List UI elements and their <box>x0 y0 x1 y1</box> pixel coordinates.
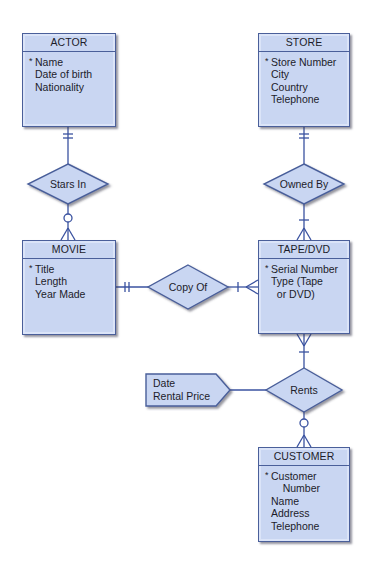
entity-tape-dvd-attributes: Serial Number Type (Tape or DVD) <box>259 259 349 300</box>
attribute-key: Title <box>35 263 115 275</box>
attribute-key: Serial Number <box>271 263 349 275</box>
relationship-attribute-text: Date Rental Price <box>153 377 210 402</box>
entity-store-title: STORE <box>259 34 349 52</box>
connector-owned-by-tape <box>297 204 311 240</box>
attribute-key: Store Number <box>271 56 349 68</box>
attribute-key: Customer <box>271 470 349 482</box>
entity-store[interactable]: STORE Store Number City Country Telephon… <box>258 33 350 127</box>
entity-tape-dvd-title: TAPE/DVD <box>259 241 349 259</box>
entity-customer-title: CUSTOMER <box>259 448 349 466</box>
connector-copy-of-tape <box>226 280 258 294</box>
connector-stars-in-movie <box>61 204 75 240</box>
connector-rents-customer <box>297 412 311 447</box>
connector-actor-stars-in <box>63 127 73 164</box>
relationship-attribute-date: Date <box>153 377 210 390</box>
entity-movie[interactable]: MOVIE Title Length Year Made <box>22 240 116 335</box>
attribute: Type (Tape <box>271 275 349 287</box>
connector-tape-rents <box>297 334 311 368</box>
attribute: Country <box>271 81 349 93</box>
entity-actor-attributes: Name Date of birth Nationality <box>23 52 115 93</box>
attribute: Telephone <box>271 93 349 105</box>
entity-customer[interactable]: CUSTOMER Customer Number Name Address Te… <box>258 447 350 542</box>
relationship-copy-of-label: Copy Of <box>169 281 208 293</box>
relationship-rents-label: Rents <box>290 384 317 396</box>
entity-store-attributes: Store Number City Country Telephone <box>259 52 349 106</box>
relationship-owned-by-label: Owned By <box>280 178 328 190</box>
entity-customer-attributes: Customer Number Name Address Telephone <box>259 466 349 532</box>
entity-tape-dvd[interactable]: TAPE/DVD Serial Number Type (Tape or DVD… <box>258 240 350 334</box>
attribute: Length <box>35 275 115 287</box>
connector-store-owned-by <box>299 127 309 164</box>
connector-movie-copy-of <box>116 282 150 292</box>
entity-actor-title: ACTOR <box>23 34 115 52</box>
entity-movie-attributes: Title Length Year Made <box>23 259 115 300</box>
er-diagram: ACTOR Name Date of birth Nationality STO… <box>0 0 388 574</box>
relationship-stars-in-label: Stars In <box>50 178 86 190</box>
attribute: Name <box>271 495 349 507</box>
attribute: or DVD) <box>271 288 349 300</box>
attribute: Date of birth <box>35 68 115 80</box>
attribute: Number <box>271 482 349 494</box>
entity-actor[interactable]: ACTOR Name Date of birth Nationality <box>22 33 116 127</box>
attribute: Address <box>271 507 349 519</box>
attribute: Nationality <box>35 81 115 93</box>
attribute: City <box>271 68 349 80</box>
attribute: Year Made <box>35 288 115 300</box>
entity-movie-title: MOVIE <box>23 241 115 259</box>
attribute-key: Name <box>35 56 115 68</box>
relationship-attribute-rental-price: Rental Price <box>153 390 210 403</box>
attribute: Telephone <box>271 520 349 532</box>
